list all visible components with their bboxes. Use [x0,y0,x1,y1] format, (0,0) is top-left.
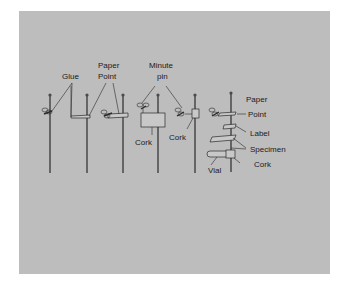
pin-6-vial-assembly [207,91,236,172]
label-cork-3: Cork [254,160,272,169]
pin-head [156,93,159,96]
pin-head [193,93,196,96]
pin-3-paper-point-insect [101,93,128,173]
label-minute-pin-line2: pin [157,72,168,81]
label-vial: Vial [208,166,221,175]
specimen-card [210,135,236,142]
label-glue: Glue [62,72,79,81]
pin-2-paper-point [71,86,90,173]
pin-1-glue [42,93,52,173]
paper-point [218,112,236,116]
label-paper-point-2-line2: Point [248,110,267,119]
pin-4-minute-pin-cork [137,93,165,173]
vial-cork [226,150,235,158]
label-cork-1: Cork [135,138,153,147]
label-card [223,124,236,129]
pin-head [48,93,51,96]
label-paper-point-1-line1: Paper [98,61,120,70]
insect-icon [175,108,184,116]
pin-head [85,93,88,96]
paper-point [71,115,90,118]
pinning-diagram: Glue Paper Point Minute pin Cork Cork Pa… [0,0,348,286]
label-specimen: Specimen [250,145,286,154]
pin-head [121,93,124,96]
insect-icon [209,108,219,116]
label-label: Label [250,129,270,138]
insect-icon [137,103,149,109]
cork-block [192,109,199,118]
pin-head [229,91,232,94]
label-minute-pin-line1: Minute [149,61,174,70]
cork-block [141,113,165,127]
label-paper-point-1-line2: Point [98,72,117,81]
label-paper-point-2-line1: Paper [246,95,268,104]
label-cork-2: Cork [169,133,187,142]
